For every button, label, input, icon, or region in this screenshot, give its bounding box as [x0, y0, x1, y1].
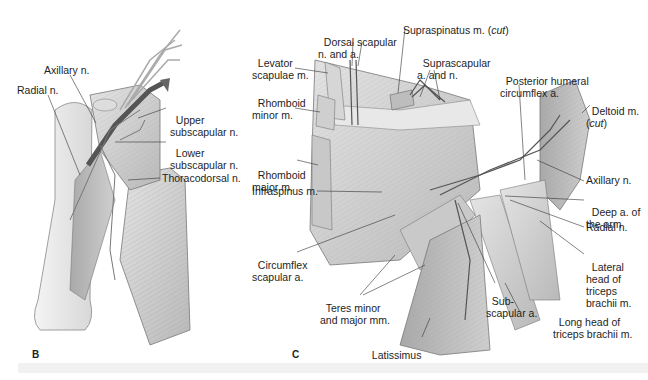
label-suprascapular: Suprascapulara. and n.	[417, 45, 491, 81]
label-line: minor m.	[252, 109, 293, 121]
label-lateral-head-triceps: Lateralhead oftricepsbrachii m.	[586, 249, 632, 309]
label-circumflex-scapular: Circumflexscapular a.	[252, 247, 307, 283]
label-line: and major mm.	[320, 314, 390, 326]
label-line: triceps brachii m.	[553, 328, 632, 340]
label-line: Dorsal scapular	[324, 36, 397, 48]
label-radial-n-c: Radial n.	[586, 221, 627, 233]
label-text: )	[604, 117, 608, 129]
label-line: Teres minor	[326, 302, 381, 314]
label-line: Upper	[176, 114, 205, 126]
label-teres-minor-major: Teres minorand major mm.	[320, 290, 390, 326]
label-thoracodorsal-n: Thoracodorsal n.	[162, 172, 241, 184]
label-subscapular-a: Sub-scapular a.	[486, 283, 537, 319]
label-line: head of	[586, 273, 621, 285]
label-lower-subscapular-n: Lowersubscapular n.	[170, 135, 238, 171]
label-line: scapular a.	[486, 307, 537, 319]
label-upper-subscapular-n: Uppersubscapular n.	[170, 102, 238, 138]
label-infraspinus: Infraspinus m.	[252, 185, 318, 197]
label-line: Lateral	[592, 261, 624, 273]
label-line: Rhomboid	[258, 169, 306, 181]
panel-letter-b: B	[32, 349, 39, 360]
label-dorsal-scapular: Dorsal scapularn. and a.	[318, 24, 397, 60]
panel-letter-c: C	[292, 349, 299, 360]
label-line: scapular a.	[252, 271, 303, 283]
footer-band	[18, 363, 648, 373]
label-line: triceps	[586, 285, 617, 297]
label-line: scapulae m.	[252, 69, 309, 81]
label-line: subscapular n.	[170, 159, 238, 171]
label-radial-n-b: Radial n.	[17, 84, 58, 96]
label-line: Lower	[176, 147, 205, 159]
label-text: Supraspinatus m. (	[403, 24, 491, 36]
label-line: Levator	[258, 57, 293, 69]
label-line: Long head of	[559, 316, 620, 328]
label-line: Sub-	[492, 295, 514, 307]
label-long-head-triceps: Long head oftriceps brachii m.	[553, 304, 632, 340]
label-axillary-n-c: Axillary n.	[586, 174, 632, 186]
label-line: Posterior humeral	[506, 75, 589, 87]
label-line: Circumflex	[258, 259, 308, 271]
label-rhomboid-minor: Rhomboidminor m.	[252, 85, 306, 121]
label-line: Rhomboid	[258, 97, 306, 109]
panel-b-illustration	[34, 30, 190, 345]
label-line: circumflex a.	[500, 87, 559, 99]
label-line: n. and a.	[318, 48, 359, 60]
label-supraspinatus: Supraspinatus m. (cut)	[403, 24, 509, 36]
label-line: Suprascapular	[423, 57, 491, 69]
label-cut: cut	[491, 24, 505, 36]
label-line: Latissimus	[372, 349, 422, 361]
label-line: Deep a. of	[592, 206, 640, 218]
label-posterior-humeral-circumflex: Posterior humeralcircumflex a.	[500, 63, 589, 99]
label-line: a. and n.	[417, 69, 458, 81]
label-levator-scapulae: Levatorscapulae m.	[252, 45, 309, 81]
label-line: Deltoid m.	[592, 105, 639, 117]
label-axillary-n-b: Axillary n.	[44, 64, 90, 76]
label-cut: cut	[590, 117, 604, 129]
label-deltoid: Deltoid m.(cut)	[586, 93, 639, 129]
label-text: )	[505, 24, 509, 36]
